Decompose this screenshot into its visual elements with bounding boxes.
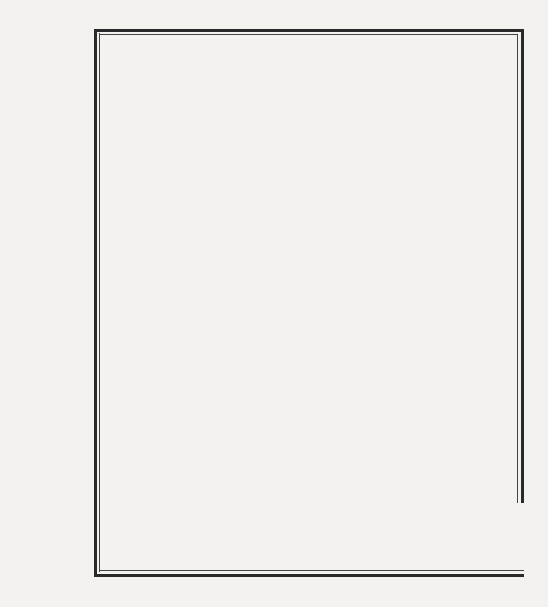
frame-border-bottom [94,574,524,577]
frame-border-top-inner [99,34,517,35]
frame-border-top [94,29,523,32]
frame-border-left-inner [99,33,100,572]
frame-border-right-inner [517,34,518,503]
frame-border-bottom-inner [99,570,524,571]
frame-border-right [521,29,524,503]
frame-border-left [94,29,97,576]
